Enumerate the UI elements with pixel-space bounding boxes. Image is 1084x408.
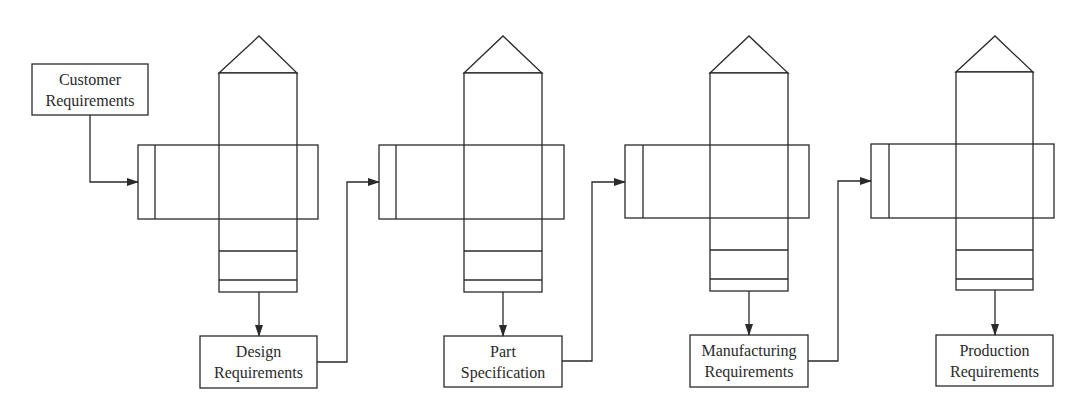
house-bar (138, 145, 318, 219)
label-manufacturing-requirements: Manufacturing Requirements (690, 335, 808, 387)
label-line-1: Manufacturing (701, 340, 796, 361)
arrow-manufacturing-to-house-4 (808, 181, 871, 361)
label-line-2: Requirements (705, 361, 794, 382)
house-bar (379, 145, 564, 219)
label-line-1: Design (236, 341, 281, 362)
roof-triangle (710, 36, 788, 73)
label-design-requirements: Design Requirements (200, 336, 317, 388)
label-part-specification: Part Specification (444, 336, 562, 387)
house-bar (871, 144, 1054, 218)
arrow-customer-to-house-1 (90, 115, 138, 182)
label-customer-requirements: Customer Requirements (32, 64, 148, 115)
roof-triangle (956, 36, 1033, 72)
house-of-quality-1 (138, 36, 318, 292)
roof-triangle (219, 36, 297, 73)
label-line-2: Requirements (950, 361, 1039, 382)
label-line-2: Requirements (214, 362, 303, 383)
arrow-design-to-house-2 (317, 182, 379, 362)
label-line-1: Production (959, 340, 1029, 361)
house-of-quality-2 (379, 36, 564, 292)
label-line-2: Specification (461, 362, 545, 383)
house-of-quality-3 (625, 36, 809, 291)
roof-triangle (464, 36, 542, 73)
label-line-1: Part (490, 341, 516, 362)
label-line-1: Customer (59, 69, 121, 90)
label-production-requirements: Production Requirements (936, 335, 1053, 386)
label-line-2: Requirements (46, 90, 135, 111)
house-of-quality-4 (871, 36, 1054, 290)
arrow-part-to-house-3 (562, 182, 625, 361)
house-bar (625, 145, 809, 218)
